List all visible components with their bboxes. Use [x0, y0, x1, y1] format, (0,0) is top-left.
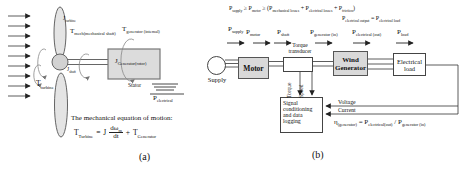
mechanical-equation: TTurbine = J dωm dt + TGenerator	[74, 125, 156, 141]
efficiency-equation: η(generator) = Pelectrical(out) / Pgener…	[334, 119, 426, 127]
figure-canvas: Jturbine Tmech(mechanical shaft) Tgenera…	[0, 0, 463, 175]
turbine-rotor	[52, 7, 68, 137]
transducer-generator-shaft	[313, 62, 333, 67]
equation-lhs: TTurbine	[74, 128, 93, 137]
electrical-load-box: Electrical load	[393, 53, 426, 76]
label-p-motor: Pmotor	[246, 29, 260, 37]
inertia-term: J	[103, 128, 106, 137]
caption-a: (a)	[139, 151, 150, 162]
label-t-turbine: Tturbine	[36, 80, 54, 88]
label-t-mech-shaft: Tmech(mechanical shaft)	[70, 28, 116, 36]
voltage-signal-label: Voltage	[338, 99, 356, 105]
supply-motor-wires	[225, 60, 238, 67]
label-j-turbine: Jturbine	[63, 15, 76, 22]
label-stator: Stator	[128, 82, 141, 88]
label-j-shaft: Jshaft	[67, 66, 76, 72]
signal-conditioning-box: Signal conditioning and data logging	[280, 97, 323, 133]
fraction-denominator: dt	[113, 133, 118, 140]
power-balance-line2: Pelectrical output = Pelectrical load	[342, 15, 400, 22]
transducer-box	[283, 57, 313, 72]
speed-signal-label: Speed	[298, 85, 304, 98]
turbine-blade-bottom	[55, 73, 68, 137]
caption-b: (b)	[312, 149, 324, 160]
stator-symbol	[150, 84, 184, 94]
label-t-generator-internal: Tgenerator (internal)	[122, 26, 160, 34]
motor-box: Motor	[238, 57, 269, 79]
current-signal-label: Current	[338, 107, 356, 113]
torque-signal-label: Torque	[286, 83, 292, 99]
label-p-shaft: Pshaft	[277, 29, 289, 37]
rotation-arrow-shaft	[79, 54, 89, 78]
plus-sign: +	[126, 128, 130, 137]
motion-equation-heading: The mechanical equation of motion:	[71, 115, 172, 123]
turbine-hub	[52, 54, 68, 70]
label-p-electrical-out: Pelectrical (out)	[352, 29, 381, 37]
label-p-load: Pload	[397, 29, 408, 37]
equation-rhs: TGenerator	[133, 128, 156, 137]
turbine-shaft	[68, 60, 108, 65]
wind-arrows	[8, 16, 30, 96]
equals-sign: =	[96, 128, 100, 137]
label-j-generator-rotor: JGenerator(rotor)	[115, 58, 146, 66]
motor-transducer-shaft	[269, 62, 283, 67]
supply-label: Supply	[201, 76, 233, 83]
supply-circle	[207, 56, 226, 75]
label-p-electrical: Pelectrical	[153, 95, 173, 103]
rotation-arrow-hub	[38, 49, 46, 77]
derivative-fraction: dωm dt	[109, 125, 122, 141]
label-p-supply: Psupply	[228, 26, 243, 34]
wind-generator-box: Wind Generator	[333, 51, 368, 76]
label-p-generator-in: Pgenerator (in)	[310, 29, 338, 37]
generator-load-wires	[368, 59, 393, 69]
transducer-label: Torque transducer	[284, 42, 316, 54]
power-balance-line1: Psupply ≥ Pmotor ≥ (Pmechanical losses +…	[229, 5, 355, 12]
